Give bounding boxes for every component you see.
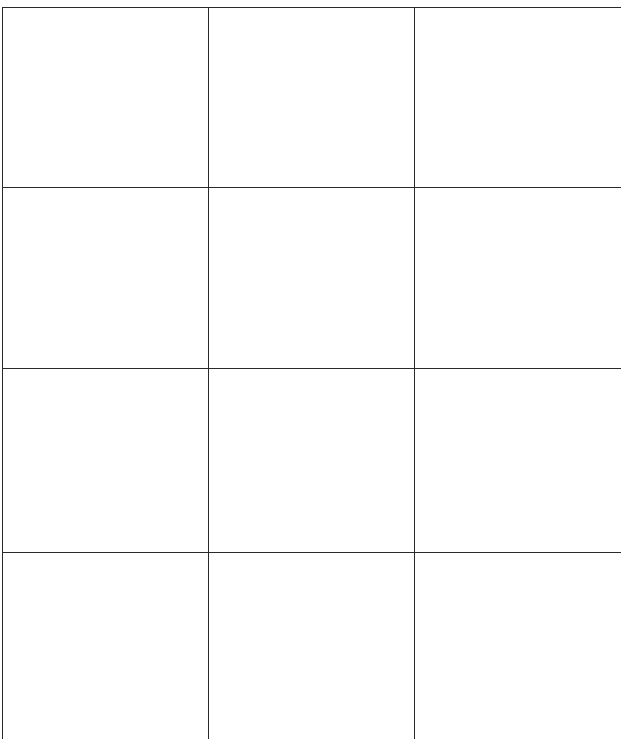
grid-cell-r2-c1 bbox=[2, 187, 208, 368]
grid-cell-r4-c2 bbox=[208, 552, 414, 739]
grid-cell-r3-c1 bbox=[2, 368, 208, 552]
grid-cell-r4-c3 bbox=[414, 552, 621, 739]
grid-cell-r1-c3 bbox=[414, 7, 621, 187]
grid-cell-r1-c1 bbox=[2, 7, 208, 187]
grid-cell-r3-c3 bbox=[414, 368, 621, 552]
grid-cell-r3-c2 bbox=[208, 368, 414, 552]
grid-cell-r4-c1 bbox=[2, 552, 208, 739]
grid-cell-r1-c2 bbox=[208, 7, 414, 187]
empty-grid bbox=[2, 7, 621, 739]
grid-cell-r2-c2 bbox=[208, 187, 414, 368]
grid-cell-r2-c3 bbox=[414, 187, 621, 368]
